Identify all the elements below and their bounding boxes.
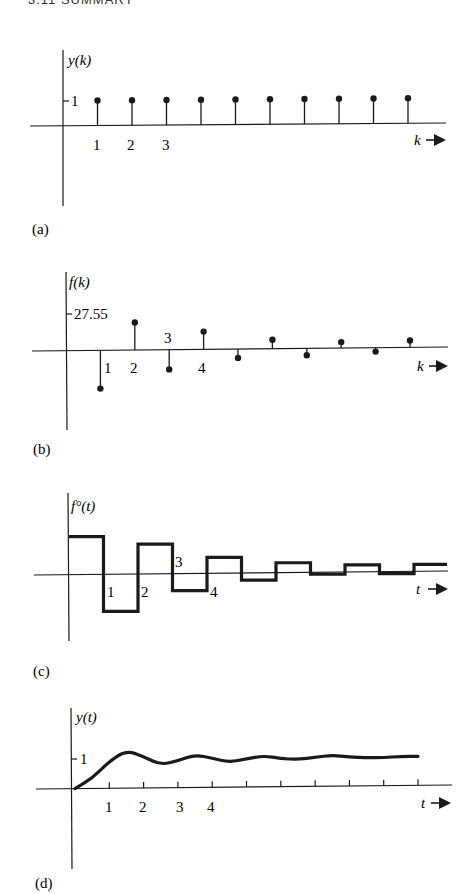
x-axis-label: k — [417, 358, 424, 374]
stem-marker — [405, 95, 411, 101]
x-tick-label: 1 — [107, 584, 115, 600]
x-tick-label: 1 — [104, 360, 112, 376]
y-tick-label: 1 — [80, 751, 88, 767]
x-axis-label: t — [416, 581, 421, 597]
stem-marker — [232, 96, 238, 102]
stem-marker — [269, 337, 275, 343]
stem-marker — [129, 97, 135, 103]
x-tick-label: 3 — [175, 554, 183, 570]
x-tick-label: 3 — [176, 799, 184, 815]
y-axis-label: y(k) — [66, 52, 91, 69]
stem-marker — [198, 97, 204, 103]
stem-series — [97, 319, 413, 392]
stem-marker — [97, 385, 103, 391]
panel-label: (b) — [33, 441, 51, 458]
stem-marker — [200, 328, 206, 334]
stem-marker — [301, 96, 307, 102]
figure: y(k) 1 1 2 3 k (a) f(k) 27.55 1 2 3 4 k … — [0, 0, 475, 894]
x-tick-label: 3 — [164, 330, 172, 346]
stem-marker — [407, 337, 413, 343]
panel-label: (d) — [35, 875, 53, 892]
x-axis-label: k — [414, 132, 421, 148]
panel-b: f(k) 27.55 1 2 3 4 k (b) — [32, 272, 448, 458]
panel-d: y(t) 1 1 2 3 4 t (d) — [35, 708, 452, 892]
y-tick-label: 1 — [71, 93, 79, 109]
x-tick-label: 2 — [139, 799, 147, 815]
arrow-right-icon — [428, 583, 448, 595]
x-axis — [30, 123, 446, 126]
x-tick-label: 2 — [127, 137, 135, 153]
x-tick-label: 4 — [210, 584, 218, 600]
stem-marker — [132, 319, 138, 325]
x-tick-label: 1 — [105, 799, 113, 815]
stem-marker — [166, 366, 172, 372]
arrow-right-icon — [431, 797, 451, 809]
stem-marker — [94, 97, 100, 103]
stem-marker — [163, 97, 169, 103]
stem-marker — [304, 352, 310, 358]
panel-label: (a) — [32, 221, 49, 238]
panel-a: y(k) 1 1 2 3 k (a) — [30, 50, 446, 238]
stem-marker — [235, 355, 241, 361]
y-tick-label: 27.55 — [74, 306, 108, 322]
panel-c: f°(t) 1 2 3 4 t (c) — [33, 493, 448, 680]
arrow-right-icon — [429, 360, 448, 372]
x-tick-label: 4 — [198, 360, 206, 376]
x-axis — [36, 785, 452, 789]
stem-marker — [338, 339, 344, 345]
arrow-right-icon — [426, 134, 446, 146]
stem-series — [94, 95, 411, 125]
x-axis-label: t — [421, 795, 426, 811]
panel-label: (c) — [33, 663, 50, 680]
x-tick-label: 1 — [93, 137, 101, 153]
y-axis — [68, 493, 69, 641]
y-axis-label: y(t) — [74, 709, 97, 726]
x-tick-label: 2 — [141, 584, 149, 600]
x-tick-label: 2 — [130, 360, 138, 376]
stem-marker — [267, 96, 273, 102]
y-axis-label: f(k) — [69, 274, 90, 291]
y-axis-label: f°(t) — [71, 498, 95, 515]
stem-marker — [372, 348, 378, 354]
x-tick-label: 3 — [162, 137, 170, 153]
x-axis — [32, 347, 448, 351]
stem-marker — [336, 96, 342, 102]
x-tick-label: 4 — [207, 799, 215, 815]
stem-marker — [370, 95, 376, 101]
